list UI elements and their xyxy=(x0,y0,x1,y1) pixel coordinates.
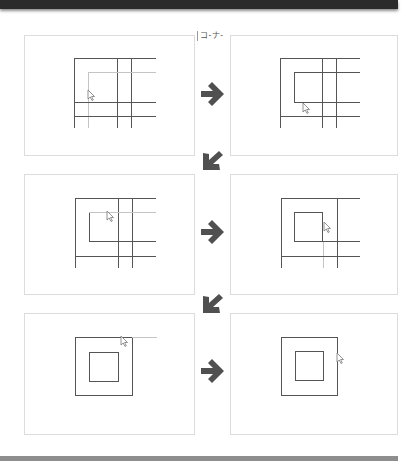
panel-4-drawing xyxy=(281,198,360,268)
mouse-cursor-icon xyxy=(303,103,310,114)
panel-2-drawing xyxy=(280,58,360,128)
arrow-right-icon xyxy=(201,220,224,244)
arrow-right-icon xyxy=(201,359,224,383)
drawing-steps xyxy=(0,0,418,461)
panel-1-drawing xyxy=(74,58,156,128)
panel-3-drawing xyxy=(75,198,156,268)
mouse-cursor-icon xyxy=(324,222,331,233)
arrow-down-left-icon xyxy=(203,151,223,170)
bottom-footer-bar xyxy=(0,456,398,461)
arrow-right-icon xyxy=(201,82,224,106)
panel-6-drawing xyxy=(282,338,344,396)
arrow-down-left-icon xyxy=(203,294,223,313)
panel-5-drawing xyxy=(76,336,158,396)
